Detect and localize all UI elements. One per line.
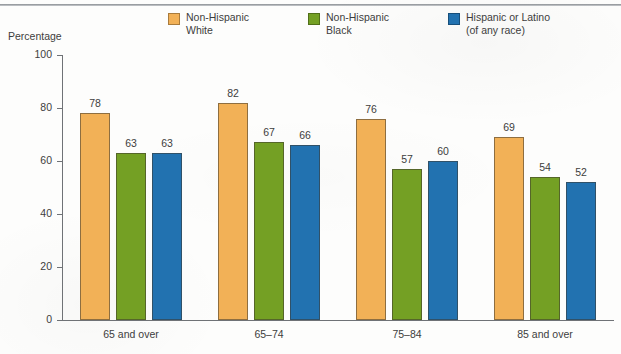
y-axis-tick-label: 100	[4, 48, 52, 60]
x-axis-line	[62, 320, 614, 321]
legend-item[interactable]: Hispanic or Latino(of any race)	[448, 11, 608, 36]
bar[interactable]	[254, 142, 284, 320]
bar[interactable]	[290, 145, 320, 320]
bar-value-label: 52	[551, 166, 611, 178]
plot-area: 786363826766765760695452	[62, 55, 614, 320]
legend-item-label: Non-HispanicWhite	[186, 11, 249, 36]
legend-swatch-non-hispanic-black	[308, 13, 320, 25]
legend-item[interactable]: Non-HispanicBlack	[308, 11, 448, 36]
legend-label-line1: Non-Hispanic	[326, 11, 389, 23]
legend-swatch-hispanic-or-latino	[448, 13, 460, 25]
x-axis-category-label: 65–74	[189, 328, 349, 340]
x-axis-category-label: 75–84	[327, 328, 487, 340]
legend-item-label: Non-HispanicBlack	[326, 11, 389, 36]
legend-label-line2: Black	[326, 24, 389, 37]
bar-value-label: 60	[413, 145, 473, 157]
bar-value-label: 82	[203, 87, 263, 99]
bar[interactable]	[566, 182, 596, 320]
bar[interactable]	[428, 161, 458, 320]
legend-label-line1: Non-Hispanic	[186, 11, 249, 23]
legend-item[interactable]: Non-HispanicWhite	[168, 11, 308, 36]
bar[interactable]	[152, 153, 182, 320]
top-divider-rule	[0, 4, 621, 6]
x-axis-category-label: 85 and over	[465, 328, 621, 340]
bar[interactable]	[356, 119, 386, 320]
y-axis-tick-label: 20	[4, 260, 52, 272]
y-axis-tick-label: 40	[4, 207, 52, 219]
bar-value-label: 69	[479, 121, 539, 133]
legend-item-label: Hispanic or Latino(of any race)	[466, 11, 550, 36]
bar-value-label: 66	[275, 129, 335, 141]
y-axis-title: Percentage	[8, 30, 62, 42]
bar-value-label: 76	[341, 103, 401, 115]
y-axis-tick-label: 60	[4, 154, 52, 166]
y-axis-tick-label: 0	[4, 313, 52, 325]
chart-page: Non-HispanicWhiteNon-HispanicBlackHispan…	[0, 0, 621, 354]
bar-value-label: 78	[65, 97, 125, 109]
legend-swatch-non-hispanic-white	[168, 13, 180, 25]
y-axis-tick	[57, 320, 63, 321]
bar[interactable]	[116, 153, 146, 320]
y-axis-tick-label: 80	[4, 101, 52, 113]
x-axis-category-label: 65 and over	[51, 328, 211, 340]
bar-value-label: 63	[137, 137, 197, 149]
legend-label-line2: White	[186, 24, 249, 37]
bar[interactable]	[392, 169, 422, 320]
chart-legend: Non-HispanicWhiteNon-HispanicBlackHispan…	[168, 11, 608, 36]
bar[interactable]	[530, 177, 560, 320]
legend-label-line2: (of any race)	[466, 24, 550, 37]
legend-label-line1: Hispanic or Latino	[466, 11, 550, 23]
